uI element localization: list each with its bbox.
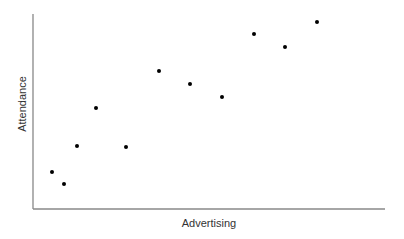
data-point — [50, 170, 54, 174]
data-point — [283, 45, 287, 49]
x-axis-label: Advertising — [182, 217, 236, 229]
data-point — [94, 106, 98, 110]
y-axis-label: Attendance — [16, 76, 28, 132]
data-point — [124, 145, 128, 149]
data-point — [315, 20, 319, 24]
scatter-chart: Advertising Attendance — [0, 0, 404, 239]
data-point — [62, 182, 66, 186]
data-point — [157, 69, 161, 73]
data-point — [220, 95, 224, 99]
data-points — [50, 20, 319, 186]
data-point — [188, 82, 192, 86]
data-point — [75, 144, 79, 148]
data-point — [252, 32, 256, 36]
